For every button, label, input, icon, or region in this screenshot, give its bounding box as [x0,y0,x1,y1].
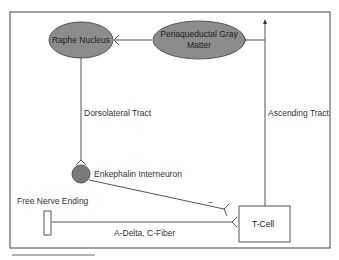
pag-label-line2: Matter [187,40,211,50]
synapse-fiber-icon [232,217,237,227]
ascending-tract-label: Ascending Tract [268,108,330,118]
enkephalin-label: Enkephalin Interneuron [94,169,182,179]
free-nerve-ending-label: Free Nerve Ending [17,196,89,206]
arrow-up-icon [263,19,267,24]
pag-label-line1: Periaqueductal Gray [160,29,238,39]
synapse-enkephalin-icon [76,160,86,165]
pain-pathway-diagram: − Raphe Nucleus Periaqueductal Gray Matt… [0,0,339,260]
dorsolateral-tract-label: Dorsolateral Tract [84,108,152,118]
inhibitory-sign: − [208,197,213,207]
free-nerve-ending-node [44,211,51,235]
raphe-nucleus-label: Raphe Nucleus [52,35,110,45]
fiber-label: A-Delta, C-Fiber [114,228,176,238]
synapse-inhibitory-icon [224,204,229,216]
enkephalin-node [72,165,90,183]
t-cell-label: T-Cell [252,219,274,229]
inhibitory-line [89,180,224,209]
